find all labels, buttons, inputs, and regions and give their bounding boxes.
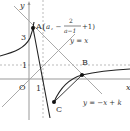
- point-C: [52, 100, 56, 104]
- line-y-equals-neg-x-plus-k: [14, 6, 102, 94]
- point-A-suffix: +1): [82, 23, 95, 31]
- point-A: [31, 26, 35, 30]
- y-tick-1: 1: [22, 61, 27, 70]
- line-y-equals-x-label: y = x: [69, 37, 88, 45]
- point-B-label: B: [82, 58, 88, 67]
- diagram: y x O 1 1 3 A ( a , − 2 a−1 +1) y = x B …: [0, 0, 130, 131]
- origin-label: O: [19, 83, 26, 92]
- point-C-label: C: [56, 105, 62, 114]
- line-y-equals-neg-x-plus-k-label: y = −x + k: [82, 99, 122, 107]
- line-y-equals-x: [2, 34, 75, 107]
- point-A-coord-a: a: [46, 23, 50, 31]
- y-axis-label: y: [19, 1, 25, 10]
- point-A-comma: , −: [51, 23, 61, 31]
- point-B: [80, 73, 84, 77]
- point-A-frac-den: a−1: [64, 27, 76, 34]
- y-tick-3: 3: [21, 33, 26, 42]
- point-A-label: A: [35, 22, 42, 31]
- hyperbola-right-branch: [54, 69, 130, 102]
- y-axis-arrow-icon: [28, 1, 31, 5]
- x-axis-label: x: [126, 83, 130, 92]
- point-A-frac-num: 2: [69, 17, 73, 24]
- x-tick-1: 1: [36, 84, 41, 93]
